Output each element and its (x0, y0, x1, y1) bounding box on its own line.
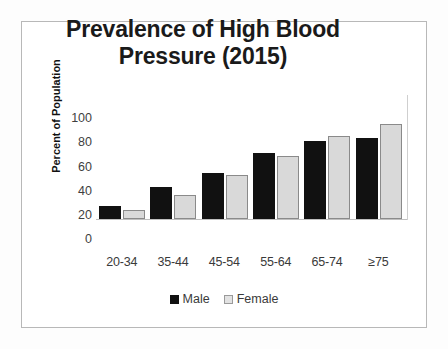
y-tick-label: 100 (58, 111, 92, 125)
x-tick-label: 45-54 (199, 255, 250, 269)
chart-figure: Prevalence of High Blood Pressure (2015)… (0, 0, 448, 349)
y-tick-label: 40 (58, 184, 92, 198)
bar-female-65-74 (328, 136, 350, 219)
bar-group (250, 97, 301, 219)
bar-female-35-44 (174, 195, 196, 219)
bar-group (301, 97, 352, 219)
bar-female-55-64 (277, 156, 299, 219)
legend-item-female[interactable]: Female (224, 292, 279, 306)
x-tick-label: 65-74 (301, 255, 352, 269)
bar-male-≥75 (356, 138, 378, 219)
plot-area (96, 97, 404, 219)
bar-male-35-44 (150, 187, 172, 219)
y-tick-label: 0 (58, 232, 92, 246)
x-tick-label: 55-64 (250, 255, 301, 269)
legend-label: Male (183, 292, 210, 306)
bar-female-45-54 (226, 175, 248, 219)
legend-label: Female (237, 292, 279, 306)
bar-female-≥75 (380, 124, 402, 219)
x-axis-line (96, 219, 408, 220)
y-tick-label: 60 (58, 160, 92, 174)
bar-male-45-54 (202, 173, 224, 219)
legend-item-male[interactable]: Male (170, 292, 210, 306)
bar-male-55-64 (253, 153, 275, 219)
chart-legend: MaleFemale (0, 292, 448, 306)
bar-group (96, 97, 147, 219)
bar-group (353, 97, 404, 219)
y-tick-label: 80 (58, 135, 92, 149)
plot-right-edge (407, 95, 408, 220)
bar-group (147, 97, 198, 219)
legend-swatch-male (170, 295, 179, 304)
bar-female-20-34 (123, 210, 145, 219)
bar-male-20-34 (99, 206, 121, 219)
bar-male-65-74 (304, 141, 326, 219)
x-tick-label: ≥75 (353, 255, 404, 269)
legend-swatch-female (224, 295, 233, 304)
x-tick-label: 35-44 (147, 255, 198, 269)
bar-group (199, 97, 250, 219)
x-tick-label: 20-34 (96, 255, 147, 269)
y-tick-label: 20 (58, 208, 92, 222)
